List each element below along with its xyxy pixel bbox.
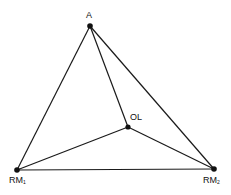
node-rm2 (211, 166, 217, 172)
edge-ol-rm2 (128, 127, 214, 169)
edge-rm1-rm2 (17, 169, 214, 170)
label-a: A (86, 11, 92, 20)
label-rm2: RM2 (203, 176, 220, 185)
diagram-canvas (0, 0, 231, 195)
node-rm1 (14, 167, 20, 173)
node-a (87, 23, 93, 29)
node-ol (125, 124, 130, 129)
label-ol: OL (130, 113, 142, 122)
edge-a-ol (90, 26, 128, 127)
label-rm1: RM1 (9, 176, 26, 185)
edge-a-rm1 (17, 26, 90, 170)
edge-ol-rm1 (17, 127, 128, 170)
edge-a-rm2 (90, 26, 214, 169)
